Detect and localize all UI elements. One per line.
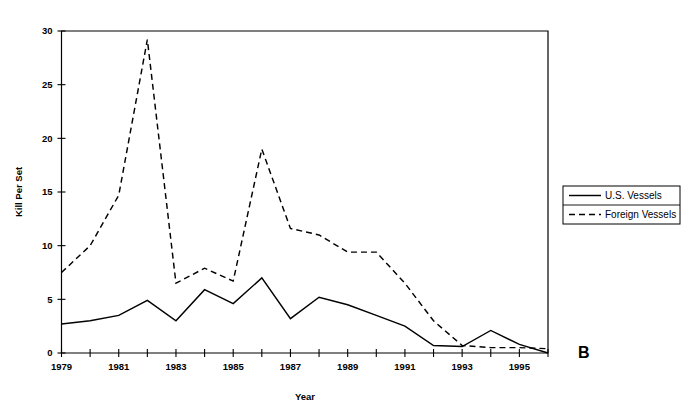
x-tick-label: 1985	[223, 361, 245, 372]
x-tick-label: 1987	[280, 361, 301, 372]
chart-legend[interactable]: U.S. VesselsForeign Vessels	[563, 186, 680, 224]
axis-tick-labels: 0510152025301979198119831985198719891991…	[42, 25, 531, 372]
x-tick-label: 1979	[51, 361, 72, 372]
x-tick-label: 1989	[337, 361, 358, 372]
plot-border	[62, 31, 549, 353]
y-tick-label: 10	[42, 240, 53, 251]
y-tick-label: 5	[47, 294, 53, 305]
y-axis-title: Kill Per Set	[13, 166, 24, 217]
y-tick-label: 20	[42, 133, 53, 144]
panel-label-b: B	[578, 344, 590, 361]
x-tick-label: 1995	[509, 361, 531, 372]
y-tick-label: 30	[42, 25, 53, 36]
x-tick-label: 1981	[108, 361, 130, 372]
x-tick-label: 1991	[394, 361, 416, 372]
y-tick-label: 15	[42, 186, 53, 197]
y-tick-label: 0	[47, 347, 52, 358]
chart-figure: 0510152025301979198119831985198719891991…	[0, 0, 688, 418]
x-tick-label: 1983	[165, 361, 186, 372]
series-line-u-s-vessels	[62, 278, 549, 353]
axis-ticks	[58, 31, 549, 357]
line-chart-svg: 0510152025301979198119831985198719891991…	[0, 0, 688, 418]
legend-label-us-vessels: U.S. Vessels	[605, 190, 662, 201]
x-tick-label: 1993	[452, 361, 473, 372]
x-axis-title: Year	[295, 391, 315, 402]
data-series	[62, 40, 549, 353]
series-line-foreign-vessels	[62, 40, 549, 349]
plot-frame	[62, 31, 549, 353]
y-tick-label: 25	[42, 79, 53, 90]
legend-label-foreign-vessels: Foreign Vessels	[605, 209, 676, 220]
